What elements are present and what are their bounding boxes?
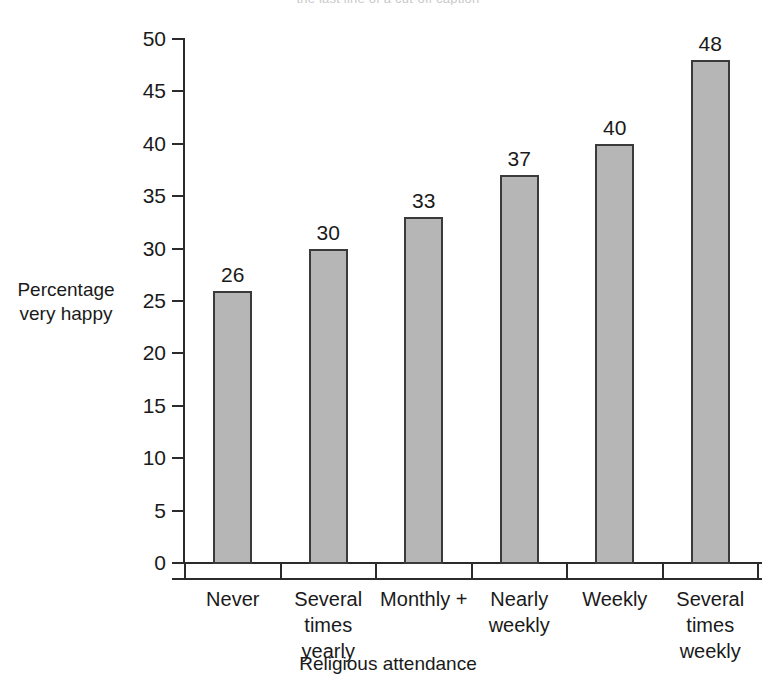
bar-value-label: 37 <box>479 148 559 170</box>
bar <box>213 291 252 564</box>
y-axis-tick-label-text: 30 <box>132 238 166 259</box>
y-axis-tick-label: 25 <box>128 290 166 311</box>
y-axis-tick <box>172 352 183 354</box>
y-axis-line <box>183 38 185 564</box>
y-axis-tick-label-text: 15 <box>132 395 166 416</box>
y-axis-tick <box>172 510 183 512</box>
y-axis-tick-label-text: 45 <box>132 80 166 101</box>
y-axis-tick <box>172 300 183 302</box>
x-axis-category-label-line: Several <box>650 586 770 612</box>
y-axis-tick-label-text: 50 <box>132 28 166 49</box>
y-axis-tick <box>172 195 183 197</box>
y-axis-tick-label: 5 <box>128 500 166 521</box>
x-axis-category-label-line: weekly <box>459 612 579 638</box>
y-axis-tick <box>172 248 183 250</box>
bar-value-label: 40 <box>575 117 655 139</box>
y-axis-tick <box>172 562 183 564</box>
y-axis-tick-label-text: 25 <box>132 290 166 311</box>
cut-off-caption-sliver: the last line of a cut-off caption <box>0 0 776 5</box>
y-axis-tick-label-text: 0 <box>132 552 166 573</box>
y-axis-title: Percentage very happy <box>6 278 126 326</box>
bar-value-label: 48 <box>670 33 750 55</box>
y-axis-tick-label: 40 <box>128 133 166 154</box>
bar <box>691 60 730 564</box>
y-axis-tick-label: 45 <box>128 80 166 101</box>
bar-value-label: 33 <box>384 190 464 212</box>
x-axis-separator-tick <box>757 562 759 580</box>
y-axis-title-line-2: very happy <box>6 302 126 326</box>
x-axis-separator-tick <box>662 562 664 580</box>
bar <box>500 175 539 564</box>
y-axis-tick-label-text: 5 <box>132 500 166 521</box>
x-axis-separator-tick <box>471 562 473 580</box>
bar <box>595 144 634 564</box>
bar-value-label: 26 <box>193 264 273 286</box>
y-axis-tick <box>172 457 183 459</box>
bar <box>309 249 348 564</box>
x-axis-category-label-line: times <box>268 612 388 638</box>
bar-chart: the last line of a cut-off caption 05101… <box>0 0 776 700</box>
y-axis-tick-label: 35 <box>128 185 166 206</box>
y-axis-tick <box>172 143 183 145</box>
y-axis-tick-label: 50 <box>128 28 166 49</box>
y-axis-tick <box>172 405 183 407</box>
y-axis-tick-label: 0 <box>128 552 166 573</box>
x-axis-separator-tick <box>184 562 186 580</box>
x-axis-separator-tick <box>280 562 282 580</box>
y-axis-tick-label: 20 <box>128 342 166 363</box>
x-axis-separator-tick <box>566 562 568 580</box>
x-axis-category-label-line: times <box>650 612 770 638</box>
bar-value-label: 30 <box>288 222 368 244</box>
y-axis-tick-label: 15 <box>128 395 166 416</box>
x-axis-lower-rule <box>172 578 762 580</box>
y-axis-tick <box>172 90 183 92</box>
y-axis-tick-label-text: 20 <box>132 342 166 363</box>
x-axis-separator-tick <box>375 562 377 580</box>
y-axis-tick-label-text: 35 <box>132 185 166 206</box>
x-axis-title: Religious attendance <box>0 653 776 675</box>
bar <box>404 217 443 564</box>
y-axis-title-line-1: Percentage <box>6 278 126 302</box>
y-axis-tick <box>172 38 183 40</box>
y-axis-tick-label-text: 40 <box>132 133 166 154</box>
y-axis-tick-label: 30 <box>128 238 166 259</box>
x-axis-line <box>172 562 762 564</box>
y-axis-tick-label-text: 10 <box>132 447 166 468</box>
y-axis-tick-label: 10 <box>128 447 166 468</box>
